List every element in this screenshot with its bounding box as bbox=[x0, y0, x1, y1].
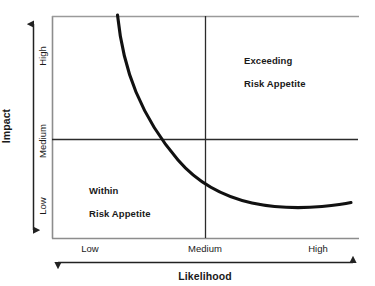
x-axis-title: Likelihood bbox=[145, 270, 265, 282]
annotation-within-line2: Risk Appetite bbox=[78, 208, 151, 219]
y-tick-label-medium: Medium bbox=[37, 118, 48, 164]
x-tick-label-medium: Medium bbox=[170, 243, 240, 254]
y-tick-label-high: High bbox=[37, 33, 48, 79]
risk-appetite-chart: Impact High Medium Low Low Medium High L… bbox=[0, 0, 375, 286]
annotation-exceeding-line1: Exceeding bbox=[244, 55, 292, 66]
annotation-exceeding-risk-appetite: Exceeding Risk Appetite bbox=[233, 44, 306, 111]
y-tick-label-low: Low bbox=[37, 183, 48, 229]
annotation-exceeding-line2: Risk Appetite bbox=[233, 78, 306, 89]
x-tick-label-low: Low bbox=[55, 243, 125, 254]
annotation-within-risk-appetite: Within Risk Appetite bbox=[78, 174, 151, 241]
x-tick-label-high: High bbox=[283, 243, 353, 254]
y-axis-title: Impact bbox=[0, 106, 12, 146]
annotation-within-line1: Within bbox=[89, 185, 119, 196]
